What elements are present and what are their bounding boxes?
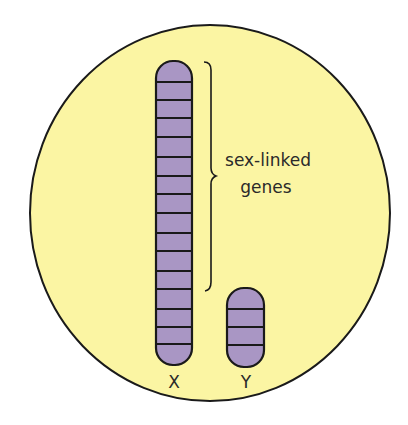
annotation-line2: genes <box>240 177 291 197</box>
diagram-canvas: sex-linked genes X Y <box>0 0 408 425</box>
cell-circle <box>30 25 390 401</box>
x-chromosome <box>156 61 192 365</box>
x-label: X <box>168 372 180 392</box>
annotation-line1: sex-linked <box>225 150 311 170</box>
y-chromosome <box>227 288 264 367</box>
y-label: Y <box>240 372 252 392</box>
